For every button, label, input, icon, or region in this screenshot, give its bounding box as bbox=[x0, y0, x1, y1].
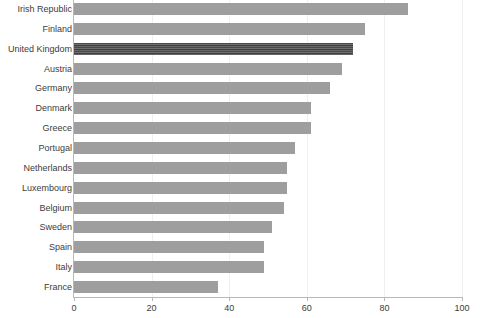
bar-france[interactable] bbox=[74, 281, 218, 293]
category-label-italy: Italy bbox=[55, 262, 72, 272]
x-tickmark-40 bbox=[229, 297, 230, 301]
bar-denmark[interactable] bbox=[74, 102, 311, 114]
category-label-belgium: Belgium bbox=[39, 203, 72, 213]
category-label-irish-republic: Irish Republic bbox=[17, 4, 72, 14]
x-tickmark-80 bbox=[384, 297, 385, 301]
category-label-denmark: Denmark bbox=[35, 103, 72, 113]
gridline-80 bbox=[384, 0, 385, 297]
x-tick-label-60: 60 bbox=[302, 303, 312, 313]
category-label-netherlands: Netherlands bbox=[23, 163, 72, 173]
category-label-germany: Germany bbox=[35, 83, 72, 93]
plot-area bbox=[74, 0, 462, 297]
bar-luxembourg[interactable] bbox=[74, 182, 287, 194]
category-label-austria: Austria bbox=[44, 64, 72, 74]
y-axis-line bbox=[73, 0, 74, 298]
x-tickmark-20 bbox=[152, 297, 153, 301]
x-tickmark-100 bbox=[462, 297, 463, 301]
bar-germany[interactable] bbox=[74, 82, 330, 94]
bar-italy[interactable] bbox=[74, 261, 264, 273]
category-label-luxembourg: Luxembourg bbox=[22, 183, 72, 193]
bar-netherlands[interactable] bbox=[74, 162, 287, 174]
bar-sweden[interactable] bbox=[74, 221, 272, 233]
category-label-finland: Finland bbox=[42, 24, 72, 34]
bar-greece[interactable] bbox=[74, 122, 311, 134]
bar-spain[interactable] bbox=[74, 241, 264, 253]
category-label-spain: Spain bbox=[49, 242, 72, 252]
category-label-france: France bbox=[44, 282, 72, 292]
horizontal-bar-chart: 020406080100 Irish RepublicFinlandUnited… bbox=[0, 0, 480, 318]
category-label-sweden: Sweden bbox=[39, 222, 72, 232]
bar-finland[interactable] bbox=[74, 23, 365, 35]
bar-portugal[interactable] bbox=[74, 142, 295, 154]
x-tick-label-80: 80 bbox=[379, 303, 389, 313]
gridline-100 bbox=[462, 0, 463, 297]
x-tickmark-0 bbox=[74, 297, 75, 301]
x-tickmark-60 bbox=[307, 297, 308, 301]
bar-austria[interactable] bbox=[74, 63, 342, 75]
category-label-portugal: Portugal bbox=[38, 143, 72, 153]
x-tick-label-20: 20 bbox=[147, 303, 157, 313]
category-label-greece: Greece bbox=[42, 123, 72, 133]
x-axis-line bbox=[73, 297, 463, 298]
x-tick-label-100: 100 bbox=[454, 303, 469, 313]
bar-irish-republic[interactable] bbox=[74, 3, 408, 15]
x-tick-label-40: 40 bbox=[224, 303, 234, 313]
bar-belgium[interactable] bbox=[74, 202, 284, 214]
bar-united-kingdom[interactable] bbox=[74, 43, 353, 55]
category-label-united-kingdom: United Kingdom bbox=[8, 44, 72, 54]
x-tick-label-0: 0 bbox=[71, 303, 76, 313]
